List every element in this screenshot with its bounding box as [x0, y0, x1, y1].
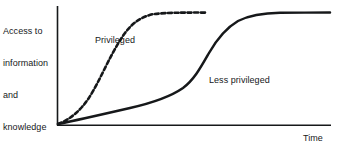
chart-figure: Access to information and knowledge Priv… [0, 0, 340, 152]
y-axis-label-line-1: Access to [3, 26, 53, 37]
series-label-less-privileged: Less privileged [209, 75, 270, 86]
y-axis-label: Access to information and knowledge [3, 5, 53, 152]
x-axis-label: Time [303, 133, 323, 144]
series-label-privileged: Privileged [95, 35, 135, 46]
y-axis-label-line-2: information [3, 58, 53, 69]
y-axis-label-line-3: and [3, 90, 53, 101]
y-axis-label-line-4: knowledge [3, 122, 53, 133]
series-line-less-privileged [58, 13, 330, 124]
